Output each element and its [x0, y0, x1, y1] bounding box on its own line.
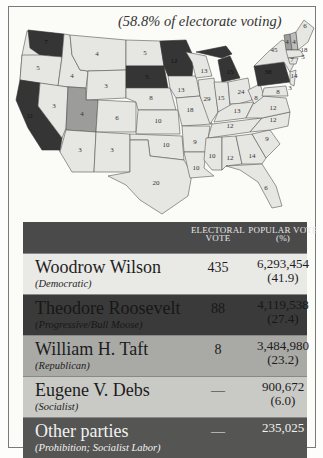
popular-vote: 3,484,980 (23.2): [253, 339, 313, 367]
electoral-vote-header: ELECTORAL VOTE: [183, 226, 253, 242]
state-label-IL: 29: [204, 95, 212, 103]
state-label-WI: 13: [201, 67, 209, 75]
popular-vote: 6,293,454 (41.9): [253, 257, 313, 285]
state-label-ND: 5: [143, 49, 147, 57]
state-label-NH: 4: [292, 38, 296, 46]
state-label-NV: 3: [52, 102, 56, 110]
state-label-TX: 20: [153, 179, 161, 187]
popular-vote: 235,025: [253, 421, 313, 435]
state-label-IN: 15: [218, 94, 226, 102]
popular-vote-percent: (27.4): [253, 312, 313, 326]
candidate-party: (Socialist): [35, 401, 78, 412]
map-subtitle: (58.8% of electorate voting): [118, 13, 281, 30]
popular-vote: 4,119,538 (27.4): [253, 298, 313, 326]
state-label-OR: 5: [36, 64, 40, 72]
state-MD: [262, 86, 288, 96]
state-label-MO: 18: [187, 106, 195, 114]
state-label-VA: 12: [270, 104, 278, 112]
popular-vote: 900,672 (6.0): [253, 380, 313, 408]
state-label-CO: 6: [115, 114, 119, 122]
state-label-ID: 4: [70, 72, 74, 80]
state-label-MT: 4: [95, 50, 99, 58]
state-label-GA: 14: [249, 152, 257, 160]
candidate-name: Eugene V. Debs: [35, 380, 150, 401]
table-row-other-parties: Other parties (Prohibition; Socialist La…: [23, 417, 307, 458]
candidate-name: William H. Taft: [35, 339, 148, 360]
state-label-RI: 5: [301, 53, 305, 61]
state-label-AZ: 3: [78, 146, 82, 154]
state-label-NC: 12: [270, 116, 278, 124]
state-label-OK: 10: [163, 141, 171, 149]
candidate-name: Woodrow Wilson: [35, 257, 161, 278]
state-label-ME: 6: [303, 22, 307, 30]
state-label-FL: 6: [264, 184, 268, 192]
state-PA: [254, 62, 290, 86]
state-label-AR: 9: [193, 138, 197, 146]
state-label-WA: 7: [44, 38, 48, 46]
popular-header-line2: (%): [247, 234, 319, 242]
candidate-party: (Prohibition; Socialist Labor): [35, 442, 161, 453]
state-label-SC: 9: [265, 135, 269, 143]
state-label-UT: 4: [80, 110, 84, 118]
popular-vote-header: POPULAR VOTE (%): [247, 226, 319, 242]
state-label-MD: 8: [276, 88, 280, 96]
state-label-NJ: 14: [291, 72, 299, 80]
candidate-party: (Republican): [35, 360, 90, 371]
state-FL: [226, 164, 282, 208]
popular-vote-count: 900,672: [253, 380, 313, 394]
electoral-header-line2: VOTE: [183, 234, 253, 242]
state-label-DE: 3: [288, 84, 292, 92]
electoral-vote: 8: [198, 342, 238, 358]
state-label-CT: 7: [290, 56, 294, 64]
electoral-vote: 435: [198, 260, 238, 276]
popular-vote-count: 4,119,538: [253, 298, 313, 312]
state-label-OH: 24: [238, 88, 246, 96]
electoral-vote: —: [198, 424, 238, 440]
popular-vote-percent: (41.9): [253, 271, 313, 285]
state-label-WY: 3: [104, 82, 108, 90]
candidate-name: Theodore Roosevelt: [35, 298, 180, 319]
state-label-KY: 13: [234, 107, 242, 115]
state-label-TN: 12: [227, 122, 235, 130]
state-label-MI: 15: [227, 68, 235, 76]
state-label-PA: 38: [265, 68, 273, 76]
state-label-NE: 8: [149, 94, 153, 102]
table-row-wilson: Woodrow Wilson (Democratic) 435 6,293,45…: [23, 253, 307, 294]
state-label-NM: 3: [110, 146, 114, 154]
state-label-LA: 10: [193, 164, 201, 172]
state-label-MS: 10: [209, 152, 217, 160]
electoral-vote: —: [198, 383, 238, 399]
state-label-IA: 13: [178, 86, 186, 94]
results-table: ELECTORAL VOTE POPULAR VOTE (%) Woodrow …: [23, 222, 307, 458]
popular-vote-count: 6,293,454: [253, 257, 313, 271]
state-label-WV: 8: [254, 94, 258, 102]
state-label-MN: 12: [171, 57, 179, 65]
candidate-party: (Progressive/Bull Moose): [35, 319, 142, 330]
candidate-party: (Democratic): [35, 278, 92, 289]
table-header: ELECTORAL VOTE POPULAR VOTE (%): [23, 222, 307, 253]
table-row-debs: Eugene V. Debs (Socialist) — 900,672 (6.…: [23, 376, 307, 417]
table-row-taft: William H. Taft (Republican) 8 3,484,980…: [23, 335, 307, 376]
popular-vote-percent: (23.2): [253, 353, 313, 367]
state-label-SD: 5: [145, 73, 149, 81]
us-electoral-map: 7511434346335581010201213189101329151524…: [0, 0, 323, 220]
state-label-VT: 4: [285, 38, 289, 46]
popular-vote-percent: (6.0): [253, 394, 313, 408]
state-label-NY: 45: [271, 46, 279, 54]
electoral-vote: 88: [198, 301, 238, 317]
state-label-KS: 10: [155, 117, 163, 125]
popular-vote-count: 3,484,980: [253, 339, 313, 353]
candidate-name: Other parties: [35, 421, 128, 442]
state-label-AL: 12: [227, 154, 235, 162]
state-label-CA: 11: [27, 112, 34, 120]
table-row-roosevelt: Theodore Roosevelt (Progressive/Bull Moo…: [23, 294, 307, 335]
popular-vote-count: 235,025: [253, 421, 313, 435]
